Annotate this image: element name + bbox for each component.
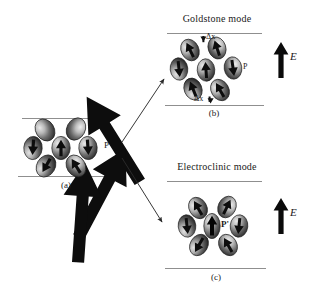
panel-b-caption: (b)	[190, 108, 238, 118]
molecule-center	[204, 213, 220, 238]
molecule	[229, 214, 249, 238]
molecule-center	[196, 58, 215, 82]
panel-b-field-label: E	[290, 50, 297, 62]
panel-a-molecules	[16, 82, 156, 264]
panel-a-polarization-label: P	[104, 140, 109, 150]
panel-b-polarization-label: P	[243, 62, 247, 71]
molecule	[223, 56, 244, 81]
panel-a-caption: (a)	[42, 180, 90, 190]
panel-c-caption: (c)	[192, 272, 240, 282]
delta-x-bottom-marker	[208, 97, 214, 104]
delta-x-bottom-label: Δx	[194, 94, 203, 103]
panel-b-molecules	[169, 35, 243, 104]
efield-arrow-c	[274, 198, 289, 234]
connector-a-to-c	[122, 158, 162, 222]
panel-b-title: Goldstone mode	[177, 13, 257, 24]
figure-canvas: Goldstone mode Electroclinic mode Δx Δx …	[0, 0, 314, 298]
panel-b	[165, 34, 288, 106]
panel-a	[16, 82, 156, 264]
panel-c-field-label: E	[290, 206, 297, 218]
efield-arrow-b	[274, 42, 289, 78]
panel-c-molecules	[177, 193, 249, 259]
panel-c-polarization-label: P'	[221, 219, 229, 229]
delta-x-top-label: Δx	[206, 32, 215, 41]
molecule-center	[52, 136, 70, 159]
schematic-svg	[0, 0, 314, 298]
molecule	[169, 57, 189, 81]
connector-a-to-b	[122, 79, 164, 142]
panel-c-title: Electroclinic mode	[172, 161, 262, 172]
molecule	[78, 136, 98, 160]
molecule	[177, 214, 197, 238]
